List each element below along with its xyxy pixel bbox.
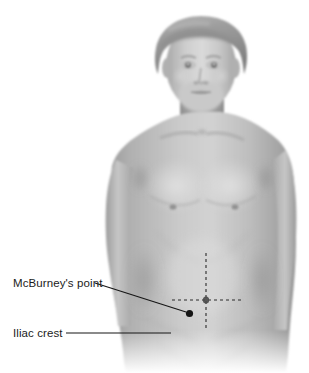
mcburney-point-label: McBurney's point: [13, 277, 102, 290]
iliac-crest-label: Iliac crest: [13, 327, 63, 340]
anatomical-figure-container: McBurney's point Iliac crest: [0, 0, 309, 373]
body-illustration: [0, 0, 309, 373]
